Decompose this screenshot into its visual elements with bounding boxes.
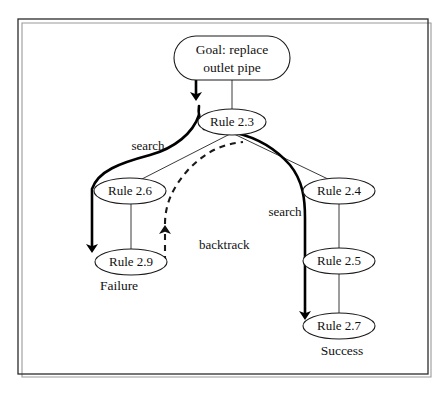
node-rule-2-3[interactable]: Rule 2.3 [198, 109, 266, 135]
node-rule-2-3-label: Rule 2.3 [210, 114, 254, 129]
node-rule-2-5-label: Rule 2.5 [317, 253, 361, 268]
node-rule-2-6[interactable]: Rule 2.6 [94, 178, 166, 204]
node-goal-label-line2: outlet pipe [203, 60, 260, 75]
node-rule-2-4[interactable]: Rule 2.4 [303, 178, 375, 204]
node-rule-2-9-label: Rule 2.9 [109, 254, 153, 269]
diagram-page: Goal: replace outlet pipe Rule 2.3 Rule … [0, 0, 446, 393]
node-rule-2-7[interactable]: Rule 2.7 [303, 313, 375, 339]
label-backtrack: backtrack [199, 237, 250, 252]
node-goal-label-line1: Goal: replace [196, 42, 268, 57]
node-goal[interactable]: Goal: replace outlet pipe [174, 36, 290, 80]
label-search-right: search [268, 204, 302, 219]
label-success: Success [321, 343, 364, 358]
rule-tree-diagram: Goal: replace outlet pipe Rule 2.3 Rule … [0, 0, 446, 393]
label-search-left: search [131, 138, 165, 153]
label-failure: Failure [100, 278, 138, 293]
search-arrow-right-path [236, 133, 305, 313]
node-rule-2-9[interactable]: Rule 2.9 [95, 249, 167, 275]
node-rule-2-7-label: Rule 2.7 [317, 318, 362, 333]
node-rule-2-6-label: Rule 2.6 [108, 183, 153, 198]
node-rule-2-5[interactable]: Rule 2.5 [303, 248, 375, 274]
node-rule-2-4-label: Rule 2.4 [317, 183, 362, 198]
